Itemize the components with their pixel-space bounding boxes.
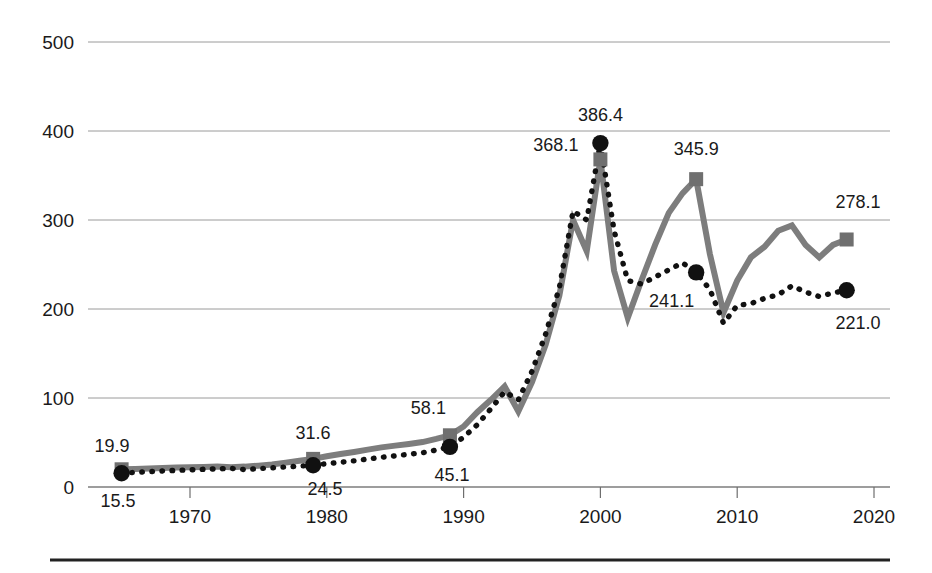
y-axis-tick-label: 400: [42, 121, 74, 142]
data-point-label: 386.4: [578, 105, 623, 125]
series-line-dotted-series: [122, 143, 847, 473]
data-point-label: 45.1: [434, 465, 469, 485]
data-point-label: 15.5: [101, 491, 136, 511]
data-point-label: 345.9: [674, 139, 719, 159]
x-axis-tick-labels: 197019801990200020102020: [169, 506, 895, 527]
x-axis-tick-label: 2010: [716, 506, 758, 527]
marker-circle: [688, 264, 704, 280]
marker-circle: [592, 135, 608, 151]
y-axis-tick-label: 0: [63, 477, 74, 498]
marker-circle: [442, 439, 458, 455]
marker-circle: [113, 465, 129, 481]
marker-circle: [305, 457, 321, 473]
marker-square: [593, 152, 607, 166]
data-point-label: 368.1: [533, 135, 578, 155]
data-point-label: 241.1: [649, 291, 694, 311]
data-point-label: 278.1: [836, 192, 881, 212]
x-axis-tick-label: 1990: [442, 506, 484, 527]
series-line-solid-series: [122, 159, 847, 469]
marker-circle: [838, 282, 854, 298]
data-point-label: 58.1: [411, 398, 446, 418]
x-axis-tick-label: 1970: [169, 506, 211, 527]
y-axis-tick-labels: 0100200300400500: [42, 32, 74, 498]
data-point-label: 24.5: [308, 479, 343, 499]
line-chart: 0100200300400500 19701980199020002010202…: [0, 0, 932, 573]
x-axis-tick-label: 2020: [853, 506, 895, 527]
marker-square: [840, 232, 854, 246]
x-axis: [88, 487, 890, 498]
x-axis-tick-label: 2000: [579, 506, 621, 527]
x-axis-tick-label: 1980: [306, 506, 348, 527]
data-series: [122, 143, 847, 473]
y-axis-tick-label: 500: [42, 32, 74, 53]
gridlines: [88, 42, 890, 487]
data-point-label: 221.0: [836, 313, 881, 333]
data-point-labels: 19.915.531.624.558.145.1368.1386.4345.92…: [95, 105, 881, 511]
data-point-markers: [113, 135, 854, 482]
chart-container: 0100200300400500 19701980199020002010202…: [0, 0, 932, 573]
y-axis-tick-label: 200: [42, 299, 74, 320]
data-point-label: 19.9: [95, 436, 130, 456]
data-point-label: 31.6: [296, 423, 331, 443]
marker-square: [689, 172, 703, 186]
y-axis-tick-label: 300: [42, 210, 74, 231]
y-axis-tick-label: 100: [42, 388, 74, 409]
